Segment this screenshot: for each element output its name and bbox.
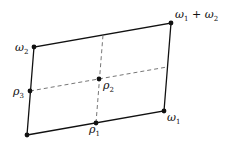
rho2-point [97, 77, 102, 82]
omega-symbol: ω [167, 111, 176, 124]
rho3-point [28, 89, 33, 94]
origin-point [25, 133, 30, 138]
subscript: 1 [176, 118, 180, 126]
subscript: 2 [24, 48, 28, 56]
plus-sign: + [188, 8, 204, 21]
omega-sum-point [169, 21, 174, 26]
label-omega1: ω1 [167, 112, 180, 126]
subscript: 2 [109, 86, 113, 94]
label-rho3: ρ3 [13, 86, 24, 100]
omega2-point [32, 45, 37, 50]
omega-symbol: ω [175, 8, 184, 21]
omega-symbol: ω [205, 8, 214, 21]
parallelogram-diagram: ω1 + ω2 ω2 ρ3 ρ2 ρ1 ω1 [0, 0, 232, 148]
subscript: 1 [95, 130, 99, 138]
label-omega2: ω2 [15, 42, 28, 56]
omega-symbol: ω [15, 41, 24, 54]
label-rho2: ρ2 [103, 80, 114, 94]
label-omega-sum: ω1 + ω2 [175, 9, 218, 23]
omega1-point [162, 109, 167, 114]
subscript: 3 [19, 92, 23, 100]
label-rho1: ρ1 [89, 124, 100, 138]
subscript: 2 [214, 15, 218, 23]
